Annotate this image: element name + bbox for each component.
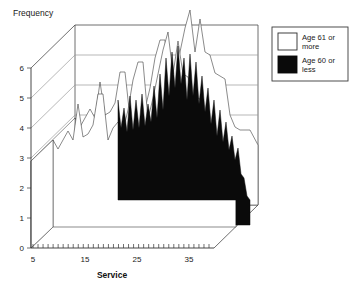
y-tick-label-2: 2 xyxy=(20,184,25,193)
y-tick-label-4: 4 xyxy=(20,124,25,133)
ribbon-mid-depth-panel xyxy=(31,140,53,248)
y-tick-label-5: 5 xyxy=(20,94,25,103)
x-axis-minor-ticks xyxy=(33,244,209,248)
y-tick-label-1: 1 xyxy=(20,214,25,223)
x-tick-label-15: 15 xyxy=(81,255,90,264)
x-tick-label-35: 35 xyxy=(185,255,194,264)
legend-label-age-61-or-more-line2: more xyxy=(302,42,319,51)
legend-label-age-60-or-less-line1: Age 60 or xyxy=(302,56,335,65)
x-tick-label-25: 25 xyxy=(133,255,142,264)
chart-container: Frequency xyxy=(0,0,355,290)
y-tick-label-0: 0 xyxy=(20,244,25,253)
legend-label-age-60-or-less-line2: less xyxy=(302,65,316,74)
legend-swatch-age-61-or-more xyxy=(278,33,297,50)
frequency-service-3d-ribbon-chart: Frequency xyxy=(0,0,355,290)
x-axis-title: Service xyxy=(97,270,128,280)
legend-label-age-61-or-more-line1: Age 61 or xyxy=(302,33,335,42)
x-tick-label-5: 5 xyxy=(31,255,36,264)
series-age-60-or-less-ribbon xyxy=(31,32,250,248)
y-tick-label-6: 6 xyxy=(20,64,25,73)
x-axis-tick-labels: 5 15 25 35 xyxy=(31,255,194,264)
y-tick-label-3: 3 xyxy=(20,154,25,163)
y-axis-title: Frequency xyxy=(13,8,54,18)
y-axis-ticks: 0 1 2 3 4 5 6 xyxy=(20,64,31,253)
legend: Age 61 or more Age 60 or less xyxy=(272,27,348,81)
legend-swatch-age-60-or-less xyxy=(278,56,297,73)
